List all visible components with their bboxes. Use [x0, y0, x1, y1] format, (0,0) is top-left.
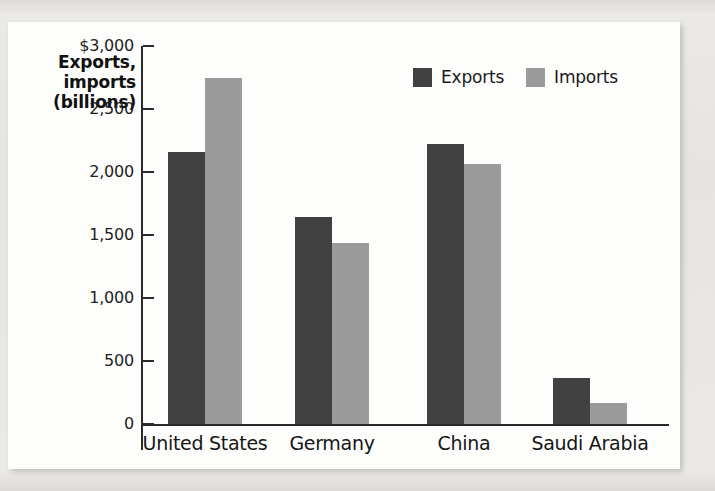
chart-legend: Exports Imports	[413, 67, 618, 87]
bar-group-united-states	[168, 46, 242, 424]
y-axis-tick-label-2000: 2,000	[16, 162, 134, 181]
bar-group-saudi-arabia	[553, 46, 627, 424]
y-axis-tick-label-2500: 2,500	[16, 99, 134, 118]
y-axis-tick-label-3000: $3,000	[16, 36, 134, 55]
y-axis-tick-label-1000: 1,000	[16, 288, 134, 307]
scan-band-top	[0, 0, 715, 16]
bar-china-imports[interactable]	[464, 164, 501, 424]
bar-group-germany	[295, 46, 369, 424]
bar-united-states-imports[interactable]	[205, 78, 242, 424]
y-axis-title-line-2: imports	[18, 72, 136, 92]
chart-figure-panel: Exports, imports (billions) 05001,0001,5…	[8, 22, 680, 469]
legend-swatch-imports-icon	[526, 68, 545, 87]
legend-label-imports: Imports	[554, 67, 618, 87]
x-axis-line	[141, 424, 669, 426]
legend-swatch-exports-icon	[413, 68, 432, 87]
y-axis-title-line-1: Exports,	[18, 52, 136, 72]
y-axis-tick-label-1500: 1,500	[16, 225, 134, 244]
bar-united-states-exports[interactable]	[168, 152, 205, 424]
bar-germany-imports[interactable]	[332, 243, 369, 424]
legend-item-imports[interactable]: Imports	[526, 67, 618, 87]
y-axis-tick-label-500: 500	[16, 351, 134, 370]
legend-item-exports[interactable]: Exports	[413, 67, 504, 87]
bar-saudi-arabia-exports[interactable]	[553, 378, 590, 424]
bar-germany-exports[interactable]	[295, 217, 332, 424]
scan-band-bottom	[0, 469, 715, 491]
bar-group-china	[427, 46, 501, 424]
y-axis-tick-label-0: 0	[16, 414, 134, 433]
legend-label-exports: Exports	[441, 67, 504, 87]
bar-saudi-arabia-imports[interactable]	[590, 403, 627, 424]
plot-area	[143, 46, 669, 424]
x-axis-label-saudi-arabia: Saudi Arabia	[500, 432, 680, 454]
bar-china-exports[interactable]	[427, 144, 464, 424]
